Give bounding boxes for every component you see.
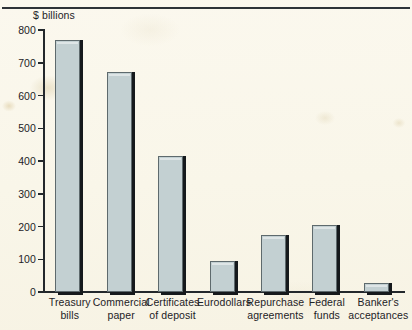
bar-highlight (263, 237, 284, 239)
bar-banker-s-acceptances (364, 283, 389, 292)
y-axis-tick-label: 400 (6, 155, 36, 167)
y-axis-tick-label: 200 (6, 221, 36, 233)
bar-commercial-paper (107, 72, 132, 292)
bar-eurodollars (210, 261, 235, 292)
y-axis-unit-label: $ billions (33, 9, 75, 21)
bar-highlight (160, 158, 181, 160)
category-label-line1: Banker's (335, 296, 412, 309)
bar-repurchase-agreements (261, 235, 286, 292)
bar-highlight (212, 263, 233, 265)
bar-treasury-bills (55, 40, 80, 292)
y-axis-tick-label: 800 (6, 24, 36, 36)
category-label-line2: acceptances (335, 309, 412, 322)
bar-highlight (57, 42, 78, 44)
y-axis-tick-label: 700 (6, 57, 36, 69)
y-axis-tick-label: 600 (6, 90, 36, 102)
bar-highlight (366, 285, 387, 287)
bar-highlight (109, 74, 130, 76)
category-label: Banker'sacceptances (335, 296, 412, 321)
plot-area (44, 30, 404, 292)
bar-highlight (314, 227, 335, 229)
bar-chart: $ billions 0100200300400500600700800 Tre… (0, 0, 412, 330)
y-axis-tick-labels: 0100200300400500600700800 (2, 0, 36, 330)
bar-certificates-of-deposit (158, 156, 183, 292)
bar-federal-funds (312, 225, 337, 292)
x-axis-category-labels: TreasurybillsCommercialpaperCertificates… (44, 296, 408, 330)
y-axis-tick-label: 100 (6, 253, 36, 265)
category-label-line2: of deposit (130, 309, 216, 322)
y-axis-tick-label: 500 (6, 122, 36, 134)
y-axis-tick-label: 300 (6, 188, 36, 200)
